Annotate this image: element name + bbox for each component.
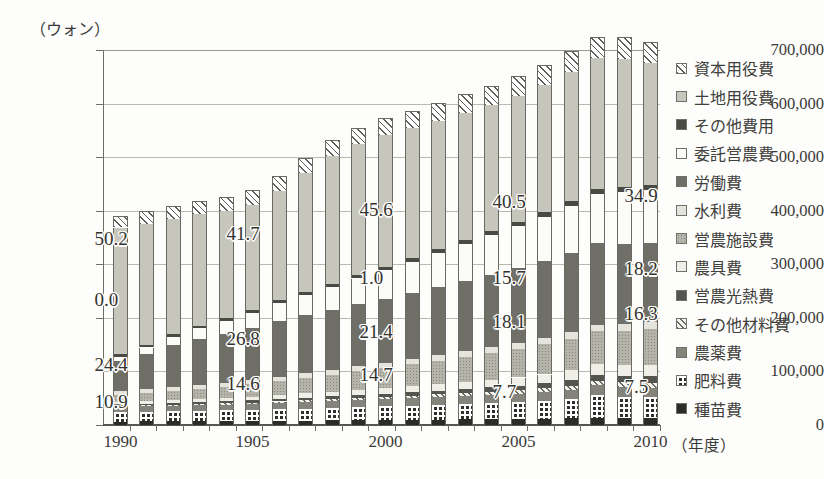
bar-2002[interactable]	[431, 50, 446, 425]
bar-segment-sonotahi	[139, 345, 154, 347]
bar-segment-shisetsu	[458, 357, 473, 382]
value-label: 1.0	[360, 267, 384, 289]
bar-segment-shubyo	[564, 418, 579, 425]
bar-segment-sonotahi	[564, 201, 579, 206]
bar-2009[interactable]	[617, 50, 632, 425]
bar-segment-sonotahi	[325, 284, 340, 287]
bar-2004[interactable]	[484, 50, 499, 425]
bar-2007[interactable]	[564, 50, 579, 425]
legend-item-hiryo[interactable]: 肥料費	[676, 366, 822, 394]
legend-item-nouyaku[interactable]: 農薬費	[676, 338, 822, 366]
bar-segment-tochi	[458, 113, 473, 240]
bar-segment-shihon	[139, 211, 154, 223]
bar-segment-nouyaku	[166, 406, 181, 411]
legend-item-label: 種苗費	[694, 397, 742, 421]
value-label: 40.5	[493, 191, 526, 213]
value-label: 16.3	[625, 303, 658, 325]
bar-segment-shisetsu	[405, 364, 420, 386]
bar-segment-tochi	[245, 205, 260, 310]
value-label: 7.7	[493, 381, 517, 403]
bar-segment-tochi	[537, 85, 552, 213]
bar-segment-nouyaku	[431, 397, 446, 405]
legend-item-sonotahi[interactable]: その他費用	[676, 111, 822, 139]
bar-segment-hiryo	[378, 406, 393, 420]
legend-item-suiri[interactable]: 水利費	[676, 196, 822, 224]
legend-item-nougu[interactable]: 農具費	[676, 253, 822, 281]
legend-item-shisetsu[interactable]: 営農施設費	[676, 224, 822, 252]
bar-1992[interactable]	[166, 50, 181, 425]
bar-segment-shihon	[272, 176, 287, 191]
bar-segment-zairyo	[219, 403, 234, 404]
legend-item-label: 水利費	[694, 198, 742, 222]
bar-segment-roudou	[272, 321, 287, 377]
bar-segment-nouyaku	[537, 392, 552, 401]
legend-item-kounetsu[interactable]: 営農光熱費	[676, 281, 822, 309]
legend-swatch-icon	[676, 91, 687, 102]
bar-1998[interactable]	[325, 50, 340, 425]
bar-segment-shihon	[166, 206, 181, 219]
bar-segment-nouyaku	[458, 396, 473, 404]
legend-swatch-icon	[676, 148, 687, 159]
bar-segment-hiryo	[458, 404, 473, 419]
legend-item-tochi[interactable]: 土地用役費	[676, 82, 822, 110]
bar-segment-nougu	[590, 364, 605, 374]
bar-segment-nougu	[378, 388, 393, 393]
bar-segment-tochi	[272, 191, 287, 300]
bar-1996[interactable]	[272, 50, 287, 425]
bar-segment-nouyaku	[245, 404, 260, 410]
legend-item-roudou[interactable]: 労働費	[676, 168, 822, 196]
bar-segment-zairyo	[431, 394, 446, 397]
bar-segment-shubyo	[245, 421, 260, 425]
bar-segment-tochi	[431, 121, 446, 249]
bar-segment-shubyo	[484, 419, 499, 425]
bar-segment-hiryo	[431, 405, 446, 420]
bar-segment-tochi	[590, 58, 605, 189]
bar-1997[interactable]	[298, 50, 313, 425]
bar-segment-zairyo	[590, 381, 605, 385]
legend-item-zairyo[interactable]: その他材料費	[676, 310, 822, 338]
x-axis-tick	[554, 425, 555, 431]
bar-segment-suiri	[325, 370, 340, 375]
bar-1993[interactable]	[192, 50, 207, 425]
value-label: 15.7	[493, 267, 526, 289]
legend-swatch-icon	[676, 261, 687, 272]
bar-segment-roudou	[325, 310, 340, 370]
bar-segment-zairyo	[458, 393, 473, 396]
bar-segment-shisetsu	[192, 389, 207, 399]
value-label: 21.4	[360, 321, 393, 343]
bar-2003[interactable]	[458, 50, 473, 425]
bar-segment-zairyo	[192, 404, 207, 405]
bar-segment-itaku	[431, 253, 446, 287]
bar-segment-suiri	[564, 332, 579, 338]
bar-segment-shihon	[219, 197, 234, 211]
bar-segment-nougu	[166, 400, 181, 403]
legend-item-shubyo[interactable]: 種苗費	[676, 395, 822, 423]
bar-2001[interactable]	[405, 50, 420, 425]
bar-segment-itaku	[139, 348, 154, 354]
bar-2005[interactable]	[511, 50, 526, 425]
bar-segment-hiryo	[166, 411, 181, 421]
x-axis-tick-label: 1905	[223, 432, 283, 452]
value-label: 41.7	[227, 223, 260, 245]
bar-2008[interactable]	[590, 50, 605, 425]
x-axis-tick	[209, 425, 210, 431]
legend-item-itaku[interactable]: 委託営農費	[676, 139, 822, 167]
bar-segment-sonotahi	[245, 310, 260, 313]
bar-segment-kounetsu	[431, 391, 446, 395]
bar-segment-roudou	[537, 261, 552, 338]
x-axis-tick	[607, 425, 608, 431]
bar-segment-hiryo	[564, 399, 579, 419]
bar-segment-sonotahi	[192, 326, 207, 328]
value-label: 10.9	[95, 391, 128, 413]
bar-2006[interactable]	[537, 50, 552, 425]
value-label: 14.7	[360, 364, 393, 386]
bar-segment-shisetsu	[484, 353, 499, 380]
bar-segment-sonotahi	[405, 258, 420, 262]
bar-1991[interactable]	[139, 50, 154, 425]
bar-segment-itaku	[245, 313, 260, 328]
legend-swatch-icon	[676, 63, 687, 74]
legend-item-shihon[interactable]: 資本用役費	[676, 54, 822, 82]
bar-segment-hiryo	[617, 397, 632, 418]
bar-2010[interactable]	[643, 50, 658, 425]
x-axis-tick	[580, 425, 581, 431]
